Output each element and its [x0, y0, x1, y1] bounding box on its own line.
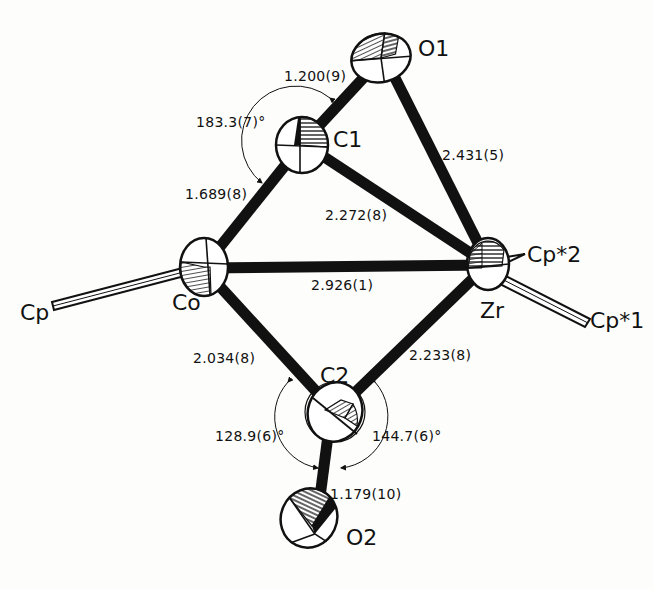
angle-label-zr-c2-o2: 144.7(6)° [372, 428, 442, 444]
bond-length-co-zr: 2.926(1) [311, 277, 373, 293]
label-c2: C2 [320, 363, 349, 388]
angle-label-co-c2-o2: 128.9(6)° [215, 428, 285, 444]
bond-length-co-c2: 2.034(8) [193, 350, 255, 366]
angle-label-co-c1-o1: 183.3(7)° [196, 114, 266, 130]
ortep-diagram: O1 C1 Co Zr C2 O2 Cp Cp*2 Cp*1 1.200(9) … [0, 0, 653, 589]
bond-length-co-c1: 1.689(8) [185, 186, 247, 202]
atom-co [180, 238, 228, 296]
molecule-structure: O1 C1 Co Zr C2 O2 Cp Cp*2 Cp*1 1.200(9) … [0, 0, 653, 589]
label-co: Co [172, 290, 201, 315]
bond-co-zr [203, 265, 487, 268]
bond-length-c1-zr: 2.272(8) [325, 207, 387, 223]
label-cp-star-2: Cp*2 [527, 242, 581, 267]
label-o2: O2 [346, 525, 377, 550]
label-cp-star-1: Cp*1 [590, 308, 644, 333]
label-o1: O1 [418, 36, 449, 61]
bond-length-c2-o2: 1.179(10) [330, 486, 402, 502]
label-cp: Cp [20, 300, 49, 325]
label-c1: C1 [333, 127, 362, 152]
bond-length-c1-o1: 1.200(9) [284, 68, 346, 84]
label-zr: Zr [480, 298, 505, 323]
atom-c1 [276, 117, 328, 173]
bond-length-c2-zr: 2.233(8) [409, 347, 471, 363]
bond-length-o1-zr: 2.431(5) [442, 147, 504, 163]
atom-zr [467, 238, 509, 290]
